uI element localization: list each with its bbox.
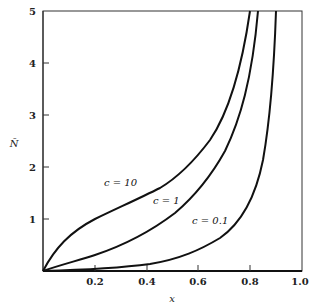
- x-tick-0.8: 0.8: [241, 276, 258, 287]
- plot-frame: [43, 11, 302, 271]
- y-tick-3: 3: [29, 110, 36, 121]
- y-tick-2: 2: [29, 162, 36, 173]
- curve-label-c-10: c = 10: [104, 177, 138, 188]
- y-tick-1: 1: [29, 214, 36, 225]
- x-tick-1.0: 1.0: [291, 276, 308, 287]
- chart: 1 2 3 4 5 0.2 0.4 0.6 0.8 1.0 x N̄ c = 1…: [0, 0, 312, 307]
- curve-label-c-1: c = 1: [153, 195, 180, 206]
- x-tick-labels: 0.2 0.4 0.6 0.8 1.0: [86, 276, 308, 287]
- y-tick-5: 5: [29, 6, 36, 17]
- x-tick-0.2: 0.2: [86, 276, 103, 287]
- curve-label-c-0.1: c = 0.1: [192, 215, 228, 226]
- curve-c-0.1: [43, 11, 276, 271]
- curves: [43, 11, 276, 271]
- x-axis-label: x: [169, 293, 175, 304]
- y-ticks: [43, 63, 49, 219]
- x-tick-0.6: 0.6: [189, 276, 206, 287]
- y-tick-labels: 1 2 3 4 5: [29, 6, 36, 225]
- y-tick-4: 4: [29, 58, 36, 69]
- y-axis-label: N̄: [9, 138, 20, 149]
- x-tick-0.4: 0.4: [138, 276, 155, 287]
